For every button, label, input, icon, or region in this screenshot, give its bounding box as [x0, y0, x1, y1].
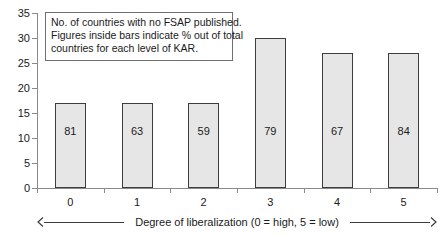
- annotation-box: No. of countries with no FSAP published.…: [45, 12, 233, 61]
- annotation-line-1: No. of countries with no FSAP published.: [51, 16, 227, 29]
- bar: [322, 53, 353, 188]
- arrow-left-icon: [37, 217, 128, 228]
- y-axis-tick: [32, 88, 37, 89]
- bar: [55, 103, 86, 188]
- y-axis-tick-label: 5: [4, 158, 30, 169]
- x-axis-tick: [237, 188, 238, 193]
- y-axis-tick: [32, 63, 37, 64]
- bar: [188, 103, 219, 188]
- x-axis-tick-label: 4: [317, 196, 357, 208]
- bar-value-label: 79: [250, 126, 290, 137]
- x-axis-tick: [104, 188, 105, 193]
- bar-value-label: 63: [117, 126, 157, 137]
- bar-value-label: 67: [317, 126, 357, 137]
- y-axis-tick-label: 0: [4, 183, 30, 194]
- x-axis-tick-label: 1: [117, 196, 157, 208]
- bar: [122, 103, 153, 188]
- y-axis-tick: [32, 38, 37, 39]
- y-axis-line: [37, 13, 38, 188]
- bar: [388, 53, 419, 188]
- y-axis-tick-label: 20: [4, 83, 30, 94]
- bar-value-label: 81: [50, 126, 90, 137]
- annotation-line-2: Figures inside bars indicate % out of to…: [51, 29, 227, 42]
- x-axis-tick-label: 5: [384, 196, 424, 208]
- x-axis-tick-label: 2: [184, 196, 224, 208]
- bar-chart-figure: 05101520253035 012345 816359796784 No. o…: [0, 0, 445, 236]
- x-axis-tick: [370, 188, 371, 193]
- y-axis-tick: [32, 138, 37, 139]
- bar: [255, 38, 286, 188]
- y-axis-tick-label: 10: [4, 133, 30, 144]
- x-axis-caption-row: Degree of liberalization (0 = high, 5 = …: [37, 212, 437, 232]
- x-axis-label: Degree of liberalization (0 = high, 5 = …: [128, 216, 346, 228]
- x-axis-tick: [304, 188, 305, 193]
- bar-value-label: 59: [184, 126, 224, 137]
- y-axis-tick-label: 25: [4, 58, 30, 69]
- y-axis-tick-label: 30: [4, 33, 30, 44]
- arrow-right-icon: [346, 217, 437, 228]
- x-axis-tick: [437, 188, 438, 193]
- x-axis-tick-label: 0: [50, 196, 90, 208]
- annotation-line-3: countries for each level of KAR.: [51, 42, 227, 55]
- y-axis-tick: [32, 113, 37, 114]
- bar-value-label: 84: [384, 126, 424, 137]
- y-axis-tick-label: 35: [4, 8, 30, 19]
- x-axis-tick: [37, 188, 38, 193]
- x-axis-tick-label: 3: [250, 196, 290, 208]
- y-axis-tick: [32, 163, 37, 164]
- x-axis-tick: [170, 188, 171, 193]
- y-axis-tick-label: 15: [4, 108, 30, 119]
- y-axis-tick: [32, 13, 37, 14]
